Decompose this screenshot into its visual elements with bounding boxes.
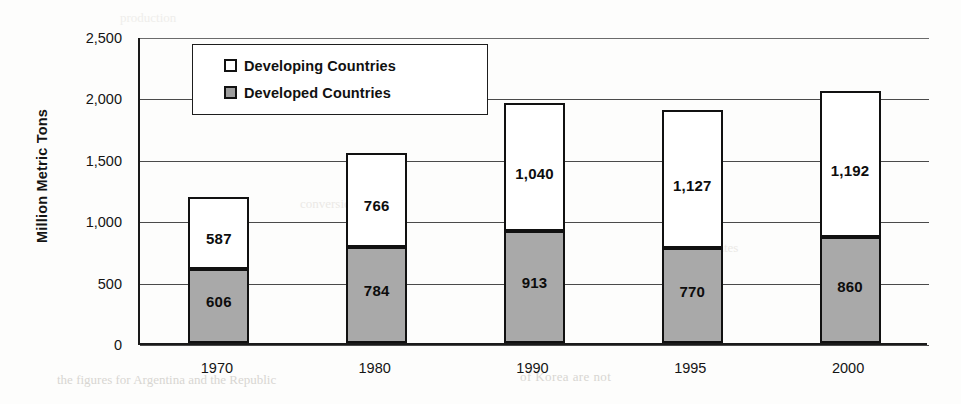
bar-value-label: 1,192 [831,162,870,179]
bar-group[interactable]: 587606 [188,197,249,344]
chart-figure: the figures for Argentina and the Republ… [0,0,961,404]
y-axis-tick-labels: 05001,0001,5002,0002,500 [0,38,130,345]
gridline [140,38,929,39]
legend-item-developed[interactable]: Developed Countries [224,79,487,106]
legend-swatch-white-icon [224,59,237,72]
x-axis-tick-label: 1970 [201,360,233,376]
bar-segment-developing[interactable]: 1,040 [504,103,565,231]
bar-segment-developed[interactable]: 913 [504,231,565,343]
bar-segment-developing[interactable]: 766 [346,153,407,247]
x-axis-tick-label: 1990 [516,360,548,376]
bar-value-label: 860 [837,278,863,295]
legend-item-label: Developing Countries [244,58,396,74]
y-axis-tick-label: 1,500 [86,153,122,169]
bar-segment-developing[interactable]: 1,192 [820,91,881,237]
y-axis-tick-label: 0 [114,337,122,353]
bar-segment-developing[interactable]: 1,127 [662,110,723,248]
chart-legend: Developing Countries Developed Countries [192,44,488,115]
x-axis-tick-labels: 19701980199019952000 [138,352,927,382]
bar-value-label: 770 [679,283,705,300]
x-axis-tick-label: 1980 [359,360,391,376]
y-axis-tick-label: 500 [98,276,122,292]
y-axis-tick-label: 2,000 [86,91,122,107]
bar-value-label: 1,040 [515,165,554,182]
bar-value-label: 606 [206,293,232,310]
bar-value-label: 784 [364,282,390,299]
y-axis-tick-label: 1,000 [86,214,122,230]
legend-item-developing[interactable]: Developing Countries [224,52,487,79]
bar-value-label: 913 [522,274,548,291]
bar-value-label: 1,127 [673,177,712,194]
legend-swatch-gray-icon [224,86,237,99]
bar-segment-developed[interactable]: 606 [188,269,249,343]
bar-group[interactable]: 1,127770 [662,110,723,343]
bar-value-label: 766 [364,197,390,214]
bar-group[interactable]: 1,040913 [504,103,565,343]
bar-segment-developed[interactable]: 784 [346,247,407,343]
legend-item-label: Developed Countries [244,85,391,101]
gridline [140,345,929,346]
y-axis-tick-label: 2,500 [86,30,122,46]
x-axis-tick-label: 2000 [832,360,864,376]
x-axis-tick-label: 1995 [674,360,706,376]
bar-value-label: 587 [206,230,232,247]
bar-group[interactable]: 1,192860 [820,91,881,343]
scan-bleed-text: production [120,10,176,26]
bar-segment-developing[interactable]: 587 [188,197,249,269]
bar-segment-developed[interactable]: 860 [820,237,881,343]
bar-group[interactable]: 766784 [346,153,407,343]
bar-segment-developed[interactable]: 770 [662,248,723,343]
